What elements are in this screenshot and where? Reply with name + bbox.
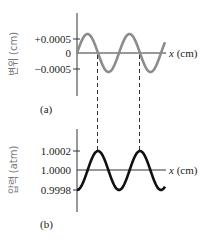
panel-b: 1.0002 1.0000 0.9998 압력 (atm) x (cm) (b) — [7, 129, 198, 231]
tick-label-mid: 1.0000 — [41, 164, 72, 176]
x-axis-label-a: x (cm) — [168, 47, 198, 60]
tick-label-neg: −0.0005 — [35, 63, 72, 75]
tick-label-low: 0.9998 — [41, 184, 72, 196]
tick-label-high: 1.0002 — [41, 145, 71, 157]
panel-label-a: (a) — [40, 103, 53, 116]
wave-diagram: +0.0005 0 −0.0005 변위 (cm) x (cm) (a) 1.0… — [0, 0, 212, 244]
panel-label-b: (b) — [40, 218, 53, 231]
panel-a: +0.0005 0 −0.0005 변위 (cm) x (cm) (a) — [7, 13, 198, 116]
y-axis-label-b: 압력 (atm) — [7, 146, 19, 195]
x-axis-label-b: x (cm) — [168, 164, 198, 177]
tick-label-pos: +0.0005 — [35, 33, 72, 45]
tick-label-zero: 0 — [66, 47, 72, 59]
y-axis-label-a: 변위 (cm) — [7, 32, 19, 76]
